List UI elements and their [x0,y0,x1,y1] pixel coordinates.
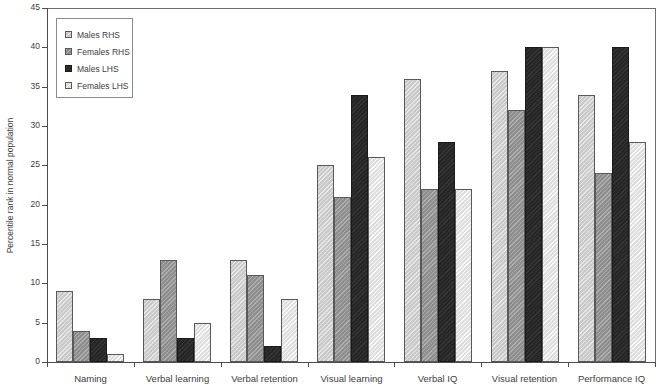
y-axis-tick-label: 30 [18,121,40,130]
plot-frame-right [655,8,656,363]
y-axis-tick [42,283,47,284]
x-axis-group-label: Verbal retention [221,373,308,384]
x-axis-tick [481,362,482,367]
bar [177,338,194,362]
bar [73,331,90,362]
y-axis-title: Percentile rank in normal population [4,8,16,363]
y-axis-tick-label: 20 [18,200,40,209]
legend-item: Females LHS [65,77,132,94]
y-axis-tick [42,244,47,245]
bar [595,173,612,362]
bar [542,47,559,362]
bar [160,260,177,362]
y-axis-tick [42,8,47,9]
x-axis-tick [568,362,569,367]
legend-item: Males LHS [65,60,132,77]
y-axis-tick-label: 35 [18,82,40,91]
x-axis-tick [134,362,135,367]
legend-item: Males RHS [65,26,132,43]
bar [56,291,73,362]
chart-legend: Males RHSFemales RHSMales LHSFemales LHS [56,18,133,98]
bar [281,299,298,362]
x-axis-group-label: Verbal IQ [394,373,481,384]
x-axis-group-label: Visual learning [308,373,395,384]
bar [107,354,124,362]
y-axis-tick [42,205,47,206]
y-axis-tick-label: 5 [18,318,40,327]
y-axis-tick-label: 15 [18,239,40,248]
x-axis-tick [655,362,656,367]
y-axis-tick [42,47,47,48]
bar [334,197,351,362]
y-axis-line [47,8,48,363]
y-axis-tick-label: 45 [18,3,40,12]
x-axis-group-label: Naming [47,373,134,384]
y-axis-tick [42,87,47,88]
bar [455,189,472,362]
legend-item-label: Females RHS [77,47,130,57]
y-axis-tick-label: 0 [18,357,40,366]
y-axis-tick-label: 25 [18,160,40,169]
y-axis-tick-label: 10 [18,278,40,287]
bar [194,323,211,362]
bar [317,165,334,362]
x-axis-group-label: Visual retention [481,373,568,384]
y-axis-tick [42,126,47,127]
legend-item-label: Females LHS [77,81,129,91]
legend-item: Females RHS [65,43,132,60]
bar [90,338,107,362]
bar [525,47,542,362]
bar-chart-figure: Percentile rank in normal population 051… [0,0,661,389]
bar [508,110,525,362]
plot-frame-top [47,8,655,9]
bar [578,95,595,362]
legend-item-label: Males LHS [77,64,119,74]
bar [491,71,508,362]
bar [143,299,160,362]
x-axis-tick [308,362,309,367]
bar [351,95,368,362]
legend-swatch-icon [65,82,72,89]
bar [368,157,385,362]
x-axis-tick [221,362,222,367]
x-axis-group-label: Verbal learning [134,373,221,384]
legend-swatch-icon [65,31,72,38]
y-axis-tick [42,323,47,324]
legend-item-label: Males RHS [77,30,120,40]
bar [421,189,438,362]
legend-swatch-icon [65,48,72,55]
x-axis-group-label: Performance IQ [568,373,655,384]
bar [230,260,247,362]
bar [438,142,455,362]
legend-swatch-icon [65,65,72,72]
bar [612,47,629,362]
x-axis-tick [394,362,395,367]
bar [264,346,281,362]
x-axis-tick [47,362,48,367]
x-axis-line [47,362,655,363]
y-axis-tick [42,165,47,166]
y-axis-tick-label: 40 [18,42,40,51]
bar [404,79,421,362]
bar [247,275,264,362]
bar [629,142,646,362]
